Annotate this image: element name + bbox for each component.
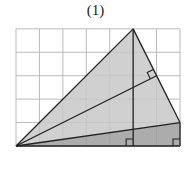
shaded-triangles xyxy=(16,29,180,146)
triangle-diagram xyxy=(0,0,191,169)
